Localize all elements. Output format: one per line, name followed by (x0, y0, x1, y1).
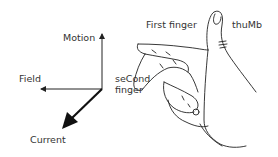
second-finger-label-line1: seCond (115, 73, 150, 84)
second-finger-label-line2: finger (115, 84, 143, 95)
current-label: Current (30, 134, 66, 145)
field-label: Field (19, 73, 41, 84)
current-arrow (62, 89, 102, 129)
thumb-label: thuMb (232, 19, 262, 30)
motion-label: Motion (63, 32, 95, 43)
hand-illustration (134, 11, 256, 147)
first-finger-label: First finger (146, 19, 197, 30)
